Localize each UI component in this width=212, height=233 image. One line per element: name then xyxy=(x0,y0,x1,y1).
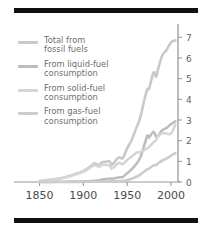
x-tick-label: 1900 xyxy=(69,189,97,202)
top-rule xyxy=(14,8,198,13)
y-tick-label: 3 xyxy=(186,116,192,126)
y-tick-label: 0 xyxy=(186,178,192,188)
series-line-liquid xyxy=(40,121,176,182)
y-tick-label: 5 xyxy=(186,74,192,84)
x-tick-label: 1950 xyxy=(113,189,141,202)
line-chart: 012345671850190019502000 xyxy=(0,20,212,212)
y-tick-label: 1 xyxy=(186,157,192,167)
y-tick-label: 4 xyxy=(186,95,192,105)
bottom-rule xyxy=(14,218,198,223)
plot-area: 012345671850190019502000 xyxy=(0,20,212,212)
x-tick-label: 1850 xyxy=(26,189,54,202)
y-tick-label: 6 xyxy=(186,54,192,64)
y-tick-label: 7 xyxy=(186,33,192,43)
series-line-total xyxy=(40,40,176,181)
y-tick-label: 2 xyxy=(186,136,192,146)
x-tick-label: 2000 xyxy=(157,189,185,202)
figure: Total from fossil fuels From liquid-fuel… xyxy=(0,0,212,233)
